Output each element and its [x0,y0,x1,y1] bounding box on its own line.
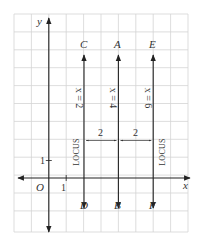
point-a-label: A [113,38,121,50]
point-c-label: C [80,38,88,50]
locus-diagram: y x O 1 1 C A E D B F x = 2 x = 4 x = 6 … [0,0,199,241]
x-axis-label: x [182,179,188,191]
y-unit-label: 1 [40,155,45,166]
locus-label-left: LOCUS [72,138,81,166]
point-f-label: F [148,199,156,211]
point-d-label: D [79,199,88,211]
point-b-label: B [114,199,121,211]
grid [14,14,188,232]
point-e-label: E [148,38,156,50]
equation-x2: x = 2 [74,88,85,109]
equation-x6: x = 6 [143,88,154,109]
locus-label-right: LOCUS [158,138,167,166]
origin-label: O [36,181,44,193]
distance-label-2: 2 [133,127,138,138]
equation-x4: x = 4 [108,88,119,109]
y-axis-label: y [36,15,42,27]
locus-lines [84,55,153,208]
distance-label-1: 2 [98,127,103,138]
x-unit-label: 1 [61,182,66,193]
